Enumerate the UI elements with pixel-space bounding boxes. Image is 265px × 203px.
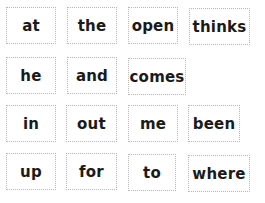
word-label: thinks bbox=[193, 18, 247, 36]
word-card[interactable]: for bbox=[66, 153, 117, 190]
word-label: been bbox=[193, 115, 236, 133]
word-card[interactable]: and bbox=[67, 57, 117, 94]
word-label: at bbox=[22, 17, 40, 35]
word-card[interactable]: been bbox=[188, 105, 240, 142]
word-card[interactable]: up bbox=[6, 153, 56, 190]
word-label: the bbox=[78, 17, 107, 35]
word-label: up bbox=[20, 163, 42, 181]
word-card[interactable]: to bbox=[128, 154, 176, 191]
word-card[interactable]: at bbox=[6, 7, 56, 44]
word-label: out bbox=[77, 115, 106, 133]
word-card[interactable]: where bbox=[188, 155, 250, 192]
word-card[interactable]: out bbox=[66, 105, 117, 142]
word-card[interactable]: me bbox=[128, 105, 178, 142]
word-card[interactable]: thinks bbox=[189, 8, 250, 45]
word-card[interactable]: in bbox=[6, 105, 56, 142]
word-card[interactable]: the bbox=[67, 7, 117, 44]
word-label: comes bbox=[130, 68, 185, 86]
word-label: me bbox=[140, 115, 166, 133]
word-card[interactable]: open bbox=[128, 7, 178, 44]
word-card[interactable]: he bbox=[6, 57, 56, 94]
word-card[interactable]: comes bbox=[128, 58, 186, 95]
word-label: he bbox=[20, 67, 41, 85]
word-label: for bbox=[79, 163, 104, 181]
word-label: to bbox=[143, 164, 161, 182]
word-label: in bbox=[23, 115, 39, 133]
word-label: open bbox=[132, 17, 175, 35]
word-label: where bbox=[192, 165, 245, 183]
word-label: and bbox=[76, 67, 108, 85]
